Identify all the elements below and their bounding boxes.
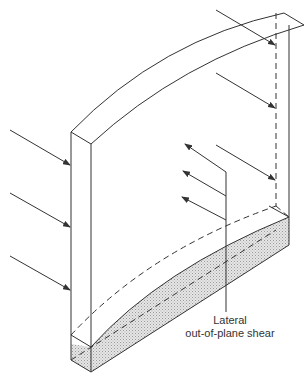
hidden-base-corner	[276, 206, 289, 217]
label-line-1: Lateral	[180, 314, 280, 327]
load-arrow-left-2	[10, 193, 70, 227]
load-arrow-left-1	[10, 130, 70, 165]
load-arrow-right-1	[216, 10, 275, 45]
shear-arrow-2	[183, 171, 226, 196]
load-arrow-right-2	[216, 73, 275, 108]
label-line-2: out-of-plane shear	[180, 327, 280, 340]
load-arrow-left-3	[10, 256, 70, 290]
wall-top-right-edge	[284, 13, 304, 25]
shear-arrow-1	[185, 144, 226, 172]
base-bottom-long	[91, 245, 289, 372]
shear-arrow-3	[182, 197, 226, 220]
load-arrow-right-3	[216, 145, 275, 180]
label-lateral-shear: Lateral out-of-plane shear	[180, 314, 280, 340]
wall-top-left-edge	[71, 132, 91, 144]
